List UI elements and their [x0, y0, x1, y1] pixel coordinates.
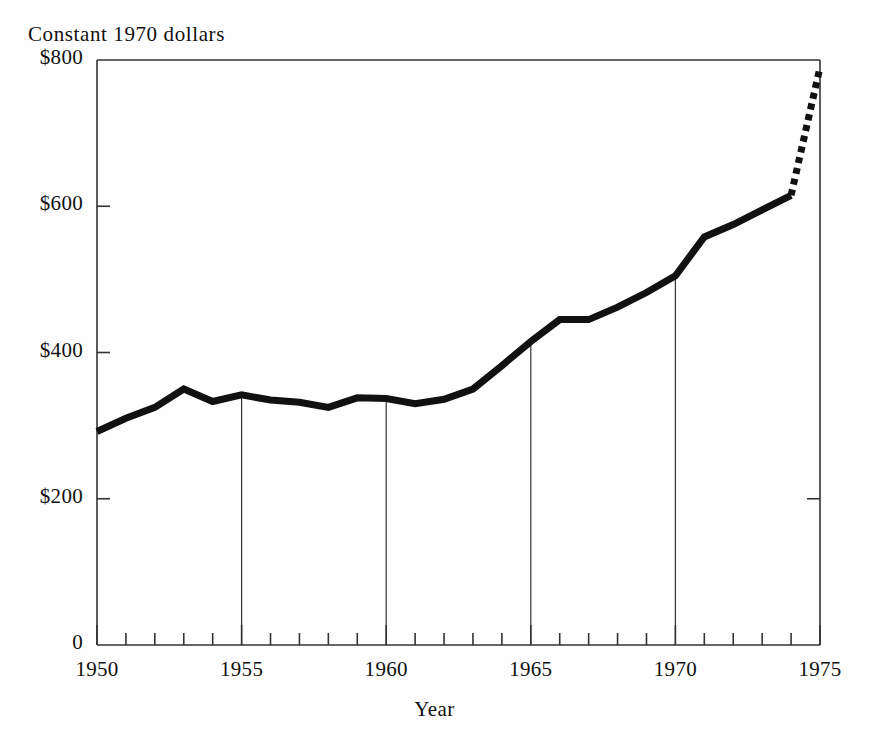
- x-tick-label-1970: 1970: [615, 657, 735, 682]
- x-tick-label-1950: 1950: [37, 657, 157, 682]
- chart-plot-area: [0, 0, 869, 745]
- y-tick-label-600: $600: [0, 191, 83, 216]
- y-tick-label-0: 0: [0, 630, 83, 655]
- y-tick-label-200: $200: [0, 484, 83, 509]
- axes: [97, 60, 820, 645]
- x-tick-label-1960: 1960: [326, 657, 446, 682]
- data-series: [97, 67, 820, 431]
- y-tick-label-800: $800: [0, 45, 83, 70]
- x-tick-label-1965: 1965: [471, 657, 591, 682]
- x-tick-label-1955: 1955: [182, 657, 302, 682]
- y-tick-label-400: $400: [0, 338, 83, 363]
- series-line-projected: [791, 67, 820, 195]
- x-tick-label-1975: 1975: [760, 657, 869, 682]
- chart-figure: Constant 1970 dollars $800$600$400$2000 …: [0, 0, 869, 745]
- x-axis-title: Year: [0, 697, 869, 722]
- series-line-actual: [97, 195, 791, 431]
- reference-lines: [242, 276, 676, 645]
